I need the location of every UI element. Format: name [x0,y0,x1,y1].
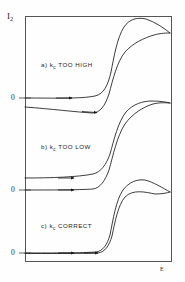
panel-a-condition: TOO HIGH [58,61,92,68]
y-tick-zero-panel-c: 0 [11,248,15,257]
panel-c-label: c) kc CORRECT [41,222,92,231]
panel-c-condition: CORRECT [58,222,92,229]
panel-a-prefix: a) [41,61,48,68]
panel-b-label: b) kc TOO LOW [41,143,91,152]
y-axis-label: I2 [7,11,13,22]
panel-b-upper-sweep [25,101,170,178]
panel-c-prefix: c) [41,222,47,229]
panel-a-symbol-subscript: c [53,65,56,70]
y-axis-label-subscript: 2 [10,15,13,22]
panel-c-upper-sweep [25,180,170,253]
y-tick-zero-panel-a: 0 [11,93,15,102]
figure-container: I2 E 0 0 0 a) kc TOO HIGH b) kc TOO LOW … [0,0,185,282]
panel-a-upper-sweep [25,18,170,98]
panel-b-symbol-subscript: c [53,147,56,152]
panel-c-curves [25,180,170,254]
plot-canvas [0,0,185,282]
x-axis-label: E [160,266,164,272]
panel-b-prefix: b) [41,143,48,150]
panel-c-symbol-subscript: c [53,226,56,231]
panel-b-condition: TOO LOW [58,143,91,150]
panel-a-label: a) kc TOO HIGH [41,61,93,70]
y-tick-zero-panel-b: 0 [11,185,15,194]
